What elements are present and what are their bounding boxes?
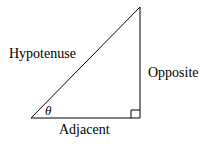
- right-angle-marker: [131, 110, 140, 118]
- adjacent-label: Adjacent: [59, 123, 110, 137]
- opposite-label: Opposite: [148, 66, 199, 80]
- hypotenuse-label: Hypotenuse: [9, 47, 76, 61]
- triangle-shape: [31, 7, 140, 118]
- angle-theta-label: θ: [45, 104, 51, 117]
